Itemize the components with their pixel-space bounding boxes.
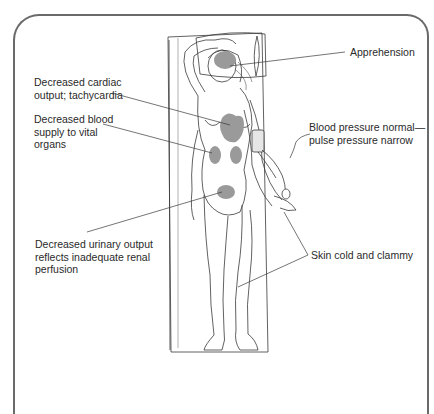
- label-blood-pressure: Blood pressure normal— pulse pressure na…: [309, 121, 425, 146]
- label-cardiac: Decreased cardiac output; tachycardia: [34, 76, 123, 101]
- legs: [204, 195, 258, 350]
- heart-shade: [220, 113, 244, 142]
- leader-blood-pressure: [290, 134, 310, 158]
- label-blood-supply: Decreased blood supply to vital organs: [34, 113, 113, 151]
- shaded-organs: [209, 51, 244, 199]
- brain-shade: [214, 51, 236, 69]
- bladder-shade: [217, 185, 235, 199]
- left-kidney-shade: [209, 146, 221, 164]
- bp-cuff: [252, 130, 290, 199]
- label-apprehension: Apprehension: [350, 46, 415, 59]
- leader-skin-leg: [238, 255, 308, 287]
- leader-urinary: [87, 192, 222, 232]
- leader-skin-hand: [284, 212, 308, 255]
- label-skin: Skin cold and clammy: [311, 249, 413, 262]
- leader-cardiac: [112, 93, 230, 125]
- label-urinary: Decreased urinary output reflects inadeq…: [35, 238, 153, 276]
- right-kidney-shade: [230, 146, 242, 164]
- leader-apprehension: [230, 52, 345, 66]
- left-arm: [191, 130, 198, 220]
